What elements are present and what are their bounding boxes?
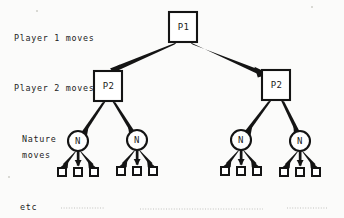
player1-node-root: P1 <box>169 12 197 42</box>
terminal-node <box>133 167 141 175</box>
game-tree-diagram: N N N N P2 P2 <box>0 0 344 218</box>
terminal-node <box>237 167 245 175</box>
nature-node-label: N <box>238 135 244 145</box>
etc-label: etc <box>20 202 37 212</box>
nature-node-2: N <box>127 130 147 150</box>
player2-node-right: P2 <box>262 70 290 100</box>
player2-box-label: P2 <box>103 81 115 91</box>
terminal-node <box>74 168 82 176</box>
nature-node-label: N <box>75 136 81 146</box>
terminal-node <box>117 167 125 175</box>
player2-node-left: P2 <box>94 71 122 101</box>
nature-node-4: N <box>290 131 310 151</box>
scan-speck <box>36 10 38 12</box>
terminal-node <box>149 167 157 175</box>
terminal-node <box>312 168 320 176</box>
row-label-nature-line-2: moves <box>22 150 51 160</box>
player2-box-label: P2 <box>271 80 283 90</box>
scan-speck <box>8 176 10 178</box>
terminal-node <box>296 168 304 176</box>
terminal-node <box>253 167 261 175</box>
nature-node-label: N <box>134 135 140 145</box>
player1-box-label: P1 <box>178 22 190 32</box>
terminal-node <box>280 168 288 176</box>
game-tree-canvas: N N N N P2 P2 <box>0 0 344 218</box>
terminal-node <box>58 168 66 176</box>
row-label-player-2-moves: Player 2 moves <box>14 83 94 93</box>
terminal-node <box>221 167 229 175</box>
nature-node-1: N <box>68 131 88 151</box>
row-label-nature-line-1: Nature <box>22 134 56 144</box>
row-label-player-1-moves: Player 1 moves <box>14 33 94 43</box>
nature-node-label: N <box>297 136 303 146</box>
terminal-node <box>90 168 98 176</box>
nature-node-3: N <box>231 130 251 150</box>
scan-speck <box>311 6 313 8</box>
